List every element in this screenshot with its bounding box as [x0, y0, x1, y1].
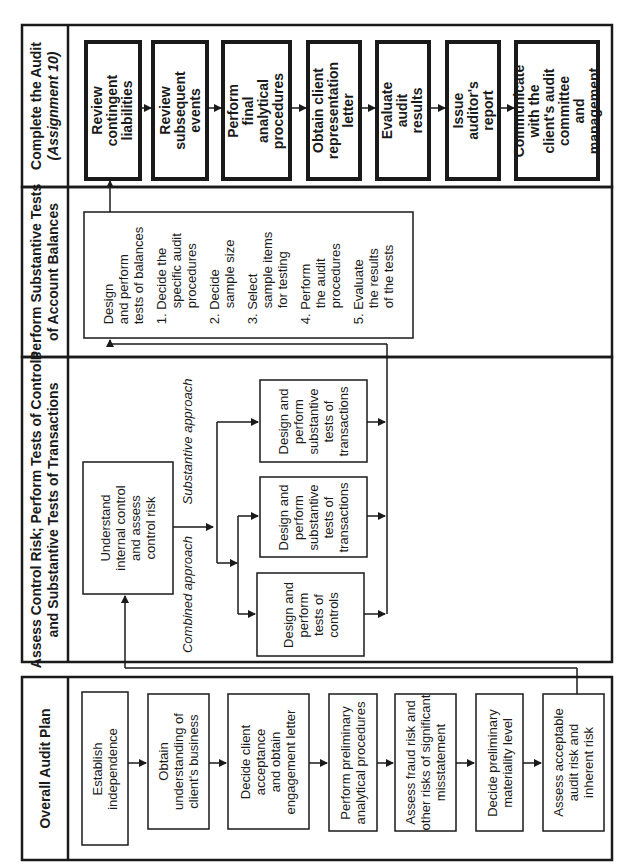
step-assess-audit-inherent-risk: Assess acceptableaudit risk andinherent … — [543, 694, 604, 831]
box-tests-of-balances: Designand performtests of balances 1. De… — [84, 212, 413, 338]
step-understand-clients-business: Obtainunderstanding ofclient's business — [148, 694, 209, 829]
step-representation-letter: Obtain client representation letter — [308, 42, 360, 179]
phase-title-line2: of Account Balances — [45, 184, 62, 360]
list-item: 4. Performthe auditprocedures — [298, 226, 343, 324]
phase-header-complete: Complete the Audit(Assignment 10) — [22, 25, 68, 187]
label-combined-approach: Combined approach — [176, 530, 200, 658]
step-evaluate-audit-results: Evaluate audit results — [377, 42, 429, 179]
step-review-contingent-liabilities: Review contingent liabilities — [86, 42, 140, 179]
audit-process-diagram: Complete the Audit(Assignment 10) Perfor… — [0, 0, 632, 868]
step-communicate-audit-committee: Communicate with the client's audit comm… — [516, 42, 598, 179]
box-substantive-tests-transactions-combined: Design andperformsubstantivetests oftran… — [260, 477, 367, 557]
step-review-subsequent-events: Review subsequent events — [153, 42, 207, 179]
step-final-analytical-procedures: Perform final analytical procedures — [223, 42, 290, 179]
step-client-acceptance: Decide clientacceptanceand obtainengagem… — [228, 694, 309, 829]
phase-title: Assess Control Risk; Perform Tests of Co… — [28, 351, 45, 667]
step-establish-independence: Establishindependence — [82, 692, 128, 845]
label-substantive-approach: Substantive approach — [176, 360, 200, 522]
phase-title: Overall Audit Plan — [37, 708, 54, 828]
phase-subtitle: (Assignment 10) — [45, 42, 62, 170]
phase-header-control: Assess Control Risk; Perform Tests of Co… — [22, 357, 68, 662]
step-issue-auditors-report: Issue auditor's report — [447, 42, 499, 179]
box-understand-internal-control: Understandinternal controland assesscont… — [83, 462, 173, 594]
phase-header-plan: Overall Audit Plan — [22, 677, 68, 860]
list-item: 2. Decidesample size — [207, 226, 237, 324]
step-assess-fraud-risk: Assess fraud risk andother risks of sign… — [395, 694, 456, 831]
phase-header-substantive: Perform Substantive Testsof Account Bala… — [22, 187, 68, 357]
phase-title: Complete the Audit — [28, 42, 45, 170]
list-item: 5. Evaluatethe resultsof the tests — [351, 226, 396, 324]
phase-title: Perform Substantive Tests — [28, 184, 45, 360]
box-substantive-tests-transactions-substantive: Design andperformsubstantivetests oftran… — [260, 380, 367, 462]
phase-title-line2: and Substantive Tests of Transactions — [45, 351, 62, 667]
step-preliminary-materiality: Decide preliminarymateriality level — [476, 694, 523, 831]
list-item: 3. Selectsample itemsfor testing — [245, 226, 290, 324]
box-tests-of-controls: Design andperformtests ofcontrols — [257, 573, 364, 656]
list-item: 1. Decide thespecific auditprocedures — [154, 226, 199, 324]
step-preliminary-analytical-procedures: Perform preliminaryanalytical procedures — [329, 694, 377, 831]
